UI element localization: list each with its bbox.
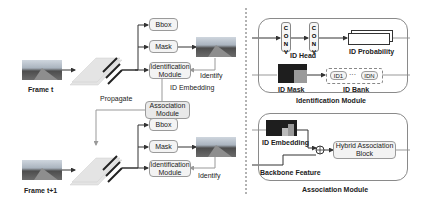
id-probability-tensor: [348, 33, 390, 45]
propagate-label: Propagate: [100, 95, 132, 102]
identification-module-box-top: Identification Module: [149, 62, 191, 79]
mask-box-bottom: Mask: [149, 140, 178, 153]
id-head-label: ID Head: [290, 52, 316, 59]
frame-t1-image: [22, 160, 62, 180]
id-bank-label: ID Bank: [343, 86, 369, 93]
association-module-title: Association Module: [302, 186, 368, 193]
id-embedding-image: [266, 120, 297, 136]
conv-block-2: CONV: [309, 22, 319, 52]
id-mask-label: ID Mask: [278, 86, 304, 93]
hybrid-association-block: Hybrid Association Block: [333, 141, 396, 159]
idn-cell: IDN: [361, 71, 378, 80]
identification-module-title: Identification Module: [296, 97, 366, 104]
id-mask-image: [278, 64, 307, 83]
identify-label-bottom: Identify: [198, 172, 221, 179]
id-bank-container: ID1 ··· IDN: [326, 68, 383, 84]
ellipsis: ···: [349, 71, 356, 78]
id-embedding-panel-label: ID Embedding: [262, 139, 309, 146]
bbox-box-top: Bbox: [149, 18, 178, 31]
conv-block-1: CONV: [281, 22, 291, 52]
identification-module-box-bottom: Identification Module: [149, 160, 191, 177]
id-embedding-label: ID Embedding: [170, 84, 214, 91]
frame-t-image: [22, 60, 62, 80]
frame-t1-label: Frame t+1: [24, 187, 57, 194]
backbone-feature-label: Backbone Feature: [260, 169, 321, 176]
identify-image-top: [196, 37, 236, 57]
identify-image-bottom: [196, 137, 236, 157]
id-probability-label: ID Probability: [349, 48, 394, 55]
association-module-box: Association Module: [145, 101, 190, 119]
identify-label-top: Identify: [200, 72, 223, 79]
id1-cell: ID1: [330, 71, 347, 80]
mask-box-top: Mask: [149, 40, 178, 53]
bbox-box-bottom: Bbox: [149, 118, 178, 131]
frame-t-label: Frame t: [28, 86, 53, 93]
